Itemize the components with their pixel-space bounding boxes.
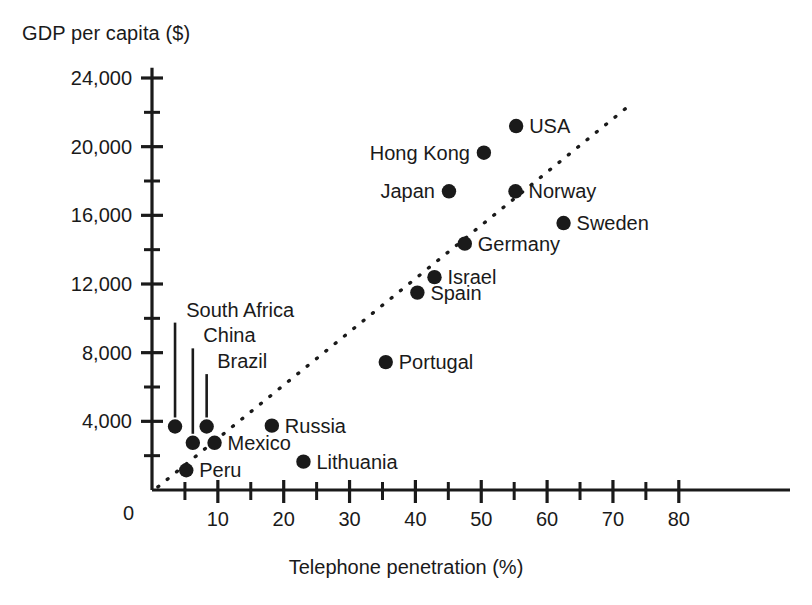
y-tick-label: 16,000 <box>71 204 132 226</box>
data-point <box>442 184 456 198</box>
data-point-label: Sweden <box>577 212 649 234</box>
x-tick-label: 40 <box>404 508 426 530</box>
data-point-label: Portugal <box>399 351 474 373</box>
data-point <box>509 119 523 133</box>
x-tick-label: 60 <box>536 508 558 530</box>
x-tick-label: 10 <box>207 508 229 530</box>
data-point <box>207 436 221 450</box>
data-point-label: Brazil <box>217 350 267 372</box>
data-point-label: Lithuania <box>316 451 398 473</box>
label-leader-lines <box>175 323 207 434</box>
data-point-label: China <box>203 324 256 346</box>
y-tick-label: 4,000 <box>82 410 132 432</box>
data-point-label: USA <box>529 115 571 137</box>
y-tick-label: 20,000 <box>71 136 132 158</box>
data-point-label: Norway <box>528 180 596 202</box>
data-point-label: Japan <box>380 180 435 202</box>
data-point <box>199 419 213 433</box>
data-point <box>168 419 182 433</box>
data-point <box>556 216 570 230</box>
data-point-label: Hong Kong <box>370 142 470 164</box>
x-tick-label: 30 <box>338 508 360 530</box>
data-point <box>477 145 491 159</box>
plot-area: 04,0008,00012,00016,00020,00024,00010203… <box>0 0 812 605</box>
y-tick-label: 12,000 <box>71 273 132 295</box>
y-tick-label: 24,000 <box>71 67 132 89</box>
data-point-label: Israel <box>447 266 496 288</box>
x-tick-label: 80 <box>668 508 690 530</box>
data-point <box>458 236 472 250</box>
y-tick-label: 0 <box>123 502 134 524</box>
data-point-label: Germany <box>478 233 560 255</box>
x-tick-label: 70 <box>602 508 624 530</box>
data-point-label: Mexico <box>228 432 291 454</box>
data-point <box>186 436 200 450</box>
x-tick-label: 50 <box>470 508 492 530</box>
scatter-chart: GDP per capita ($) 04,0008,00012,00016,0… <box>0 0 812 605</box>
y-tick-label: 8,000 <box>82 342 132 364</box>
data-point-label: Russia <box>285 415 347 437</box>
data-point <box>265 418 279 432</box>
data-point-label: Peru <box>199 459 241 481</box>
x-axis-title: Telephone penetration (%) <box>0 556 812 579</box>
x-tick-label: 20 <box>273 508 295 530</box>
data-point <box>508 184 522 198</box>
data-point-label: South Africa <box>186 299 295 321</box>
data-point <box>410 285 424 299</box>
data-point <box>179 463 193 477</box>
data-point <box>296 454 310 468</box>
data-point <box>379 355 393 369</box>
